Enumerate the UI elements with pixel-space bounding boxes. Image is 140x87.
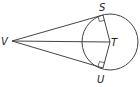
tangent-VU [12, 41, 103, 68]
geometry-diagram: V S T U [0, 0, 140, 87]
tangent-VS [12, 15, 103, 41]
label-S: S [99, 2, 106, 13]
radius-TU [103, 42, 110, 68]
radius-TS [103, 15, 110, 42]
label-T: T [111, 37, 118, 48]
segment-VT [12, 41, 110, 42]
label-U: U [97, 74, 105, 85]
label-V: V [1, 36, 9, 47]
